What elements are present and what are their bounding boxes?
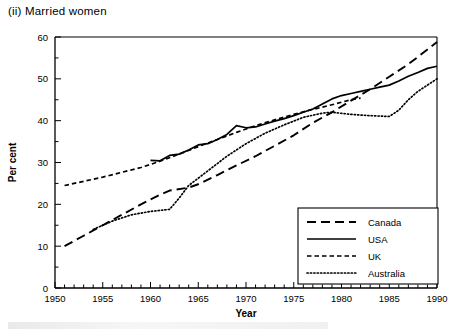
x-axis-label: Year — [235, 308, 256, 319]
y-tick-label-10: 10 — [37, 241, 48, 252]
x-tick-label-1985: 1985 — [379, 293, 400, 304]
legend-label-uk: UK — [368, 251, 382, 262]
x-tick-label-1960: 1960 — [140, 293, 161, 304]
x-tick-label-1990: 1990 — [426, 293, 447, 304]
x-tick-label-1950: 1950 — [44, 293, 65, 304]
figure-panel: (ii) Married women 195019551960196519701… — [0, 0, 460, 332]
y-tick-label-40: 40 — [37, 115, 48, 126]
y-tick-label-20: 20 — [37, 199, 48, 210]
x-tick-label-1980: 1980 — [331, 293, 352, 304]
legend-label-canada: Canada — [368, 217, 402, 228]
y-axis-label: Per cent — [7, 142, 18, 182]
y-tick-label-50: 50 — [37, 73, 48, 84]
x-tick-label-1975: 1975 — [283, 293, 304, 304]
page-bottom-artifact — [8, 322, 328, 329]
x-tick-label-1970: 1970 — [235, 293, 256, 304]
legend-label-australia: Australia — [368, 268, 406, 279]
x-tick-label-1965: 1965 — [188, 293, 209, 304]
y-tick-label-60: 60 — [37, 32, 48, 43]
series-line-australia — [93, 79, 437, 230]
y-tick-label-0: 0 — [43, 283, 48, 294]
y-tick-label-30: 30 — [37, 157, 48, 168]
figure-title: (ii) Married women — [8, 5, 107, 17]
x-tick-label-1955: 1955 — [92, 293, 113, 304]
legend-label-usa: USA — [368, 234, 388, 245]
plot-area: 1950195519601965197019751980198519900102… — [7, 32, 448, 320]
line-chart: 1950195519601965197019751980198519900102… — [0, 0, 460, 332]
